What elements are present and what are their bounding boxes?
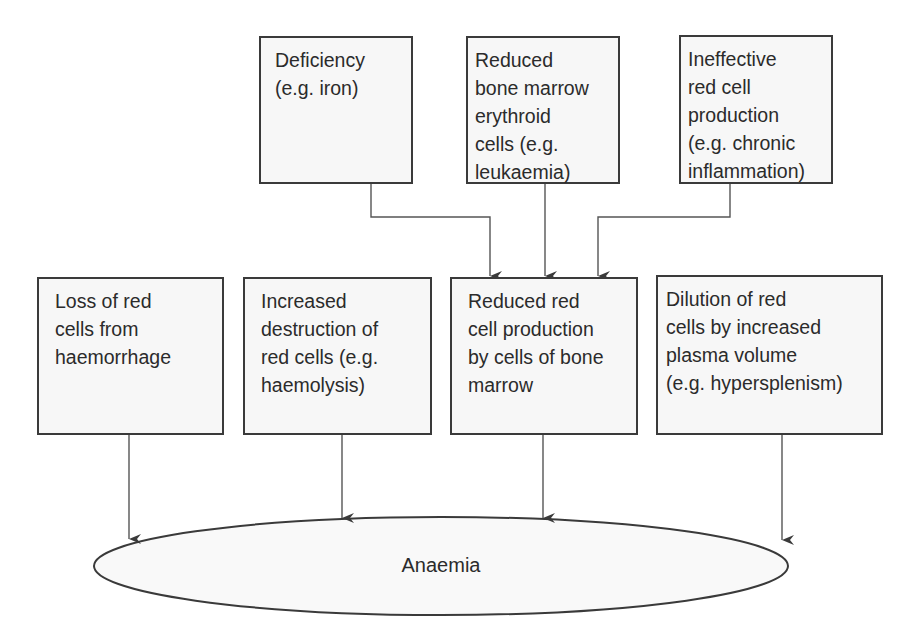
anaemia-label: Anaemia xyxy=(341,554,541,577)
anaemia-causes-diagram: Deficiency (e.g. iron) Reduced bone marr… xyxy=(0,0,908,628)
box-loss-haemorrhage: Loss of red cells from haemorrhage xyxy=(37,277,224,435)
box-increased-destruction: Increased destruction of red cells (e.g.… xyxy=(243,277,432,435)
box-deficiency: Deficiency (e.g. iron) xyxy=(259,36,413,184)
arrow-ineffective-to-reduced-production xyxy=(598,183,730,276)
box-reduced-erythroid: Reduced bone marrow erythroid cells (e.g… xyxy=(466,36,620,184)
arrow-deficiency-to-reduced-production xyxy=(371,183,490,276)
box-reduced-production: Reduced red cell production by cells of … xyxy=(450,277,638,435)
box-dilution: Dilution of red cells by increased plasm… xyxy=(656,275,883,435)
box-ineffective-production: Ineffective red cell production (e.g. ch… xyxy=(679,35,833,184)
